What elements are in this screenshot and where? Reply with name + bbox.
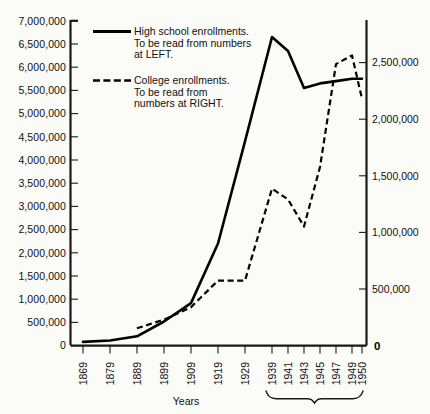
right-tick-label: 2,500,000 bbox=[372, 56, 419, 68]
left-tick-label: 1,500,000 bbox=[18, 270, 66, 282]
left-tick-label: 2,000,000 bbox=[18, 247, 66, 259]
right-axis-zero-label: 0 bbox=[374, 340, 380, 352]
year-label: 1909 bbox=[185, 362, 197, 386]
x-axis-ticks bbox=[83, 346, 362, 354]
year-label: 1941 bbox=[282, 362, 294, 386]
left-tick-label: 2,500,000 bbox=[18, 223, 66, 235]
chart-legend: High school enrollments. To be read from… bbox=[93, 25, 251, 109]
x-axis-title: Years bbox=[173, 395, 199, 407]
left-axis: 7,000,000 6,500,000 6,000,000 5,500,000 … bbox=[18, 15, 78, 352]
legend-label-line: at LEFT. bbox=[134, 48, 173, 60]
right-tick-label: 2,000,000 bbox=[372, 113, 419, 125]
left-tick-label: 1,000,000 bbox=[18, 293, 66, 305]
left-tick-label: 7,000,000 bbox=[18, 15, 66, 27]
year-label: 1929 bbox=[239, 362, 251, 386]
legend-label-line: To be read from bbox=[134, 86, 208, 98]
right-axis: 2,500,000 2,000,000 1,500,000 1,000,000 … bbox=[359, 20, 419, 352]
right-tick-label: 1,000,000 bbox=[372, 226, 419, 238]
chart-figure: 7,000,000 6,500,000 6,000,000 5,500,000 … bbox=[0, 0, 430, 414]
legend-label-line: High school enrollments. bbox=[134, 25, 249, 37]
legend-label-line: numbers at RIGHT. bbox=[134, 97, 224, 109]
year-label: 1919 bbox=[212, 362, 224, 386]
legend-entry-high-school: High school enrollments. To be read from… bbox=[93, 25, 251, 60]
x-axis-tick-labels: 1869 1879 1889 1899 1909 1919 1929 1939 … bbox=[77, 362, 368, 386]
left-tick-label: 6,000,000 bbox=[18, 61, 66, 73]
left-tick-label: 5,000,000 bbox=[18, 107, 66, 119]
recent-years-brace bbox=[266, 391, 363, 403]
legend-label-line: College enrollments. bbox=[134, 74, 230, 86]
year-label: 1889 bbox=[131, 362, 143, 386]
year-label: 1945 bbox=[314, 362, 326, 386]
year-label: 1943 bbox=[298, 362, 310, 386]
left-tick-label: 0 bbox=[60, 339, 66, 351]
year-label: 1950 bbox=[356, 362, 368, 386]
left-axis-tick-labels: 7,000,000 6,500,000 6,000,000 5,500,000 … bbox=[18, 15, 66, 352]
right-axis-ticks bbox=[359, 63, 367, 346]
left-tick-label: 4,500,000 bbox=[18, 131, 66, 143]
right-axis-tick-labels: 2,500,000 2,000,000 1,500,000 1,000,000 … bbox=[372, 56, 419, 352]
year-label: 1879 bbox=[104, 362, 116, 386]
left-tick-label: 5,500,000 bbox=[18, 84, 66, 96]
left-tick-label: 3,500,000 bbox=[18, 177, 66, 189]
year-label: 1947 bbox=[330, 362, 342, 386]
left-tick-label: 6,500,000 bbox=[18, 38, 66, 50]
left-tick-label: 3,000,000 bbox=[18, 200, 66, 212]
year-label: 1869 bbox=[77, 362, 89, 386]
year-label: 1899 bbox=[158, 362, 170, 386]
x-axis: 1869 1879 1889 1899 1909 1919 1929 1939 … bbox=[71, 346, 369, 407]
legend-label-line: To be read from numbers bbox=[134, 37, 251, 49]
chart-canvas: 7,000,000 6,500,000 6,000,000 5,500,000 … bbox=[0, 0, 430, 414]
right-tick-label: 1,500,000 bbox=[372, 170, 419, 182]
left-axis-ticks bbox=[71, 21, 79, 346]
year-label: 1939 bbox=[266, 362, 278, 386]
left-tick-label: 500,000 bbox=[27, 316, 66, 328]
left-tick-label: 4,000,000 bbox=[18, 154, 66, 166]
right-tick-label: 500,000 bbox=[372, 283, 410, 295]
legend-entry-college: College enrollments. To be read from num… bbox=[93, 74, 230, 109]
